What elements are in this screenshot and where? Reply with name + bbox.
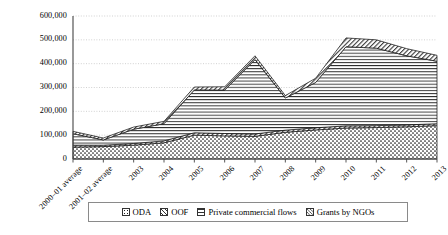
- legend-item[interactable]: OOF: [160, 207, 188, 217]
- y-axis-tick-label: 600,000: [0, 11, 67, 20]
- grants-by-ngos-swatch-icon: [306, 208, 314, 216]
- y-axis-tick-label: 500,000: [0, 34, 67, 43]
- private-commercial-flows-swatch-icon: [197, 208, 205, 216]
- area-series-group: [73, 38, 437, 159]
- y-axis-tick-label: 400,000: [0, 58, 67, 67]
- legend-label: OOF: [171, 207, 188, 217]
- legend-label: ODA: [133, 207, 152, 217]
- legend-item[interactable]: Private commercial flows: [197, 207, 296, 217]
- y-axis-tick-label: 100,000: [0, 130, 67, 139]
- chart-legend: ODAOOFPrivate commercial flowsGrants by …: [88, 202, 408, 222]
- legend-item[interactable]: Grants by NGOs: [306, 207, 375, 217]
- legend-label: Private commercial flows: [208, 207, 296, 217]
- y-axis-tick-label: 200,000: [0, 106, 67, 115]
- oda-swatch-icon: [122, 208, 130, 216]
- legend-item[interactable]: ODA: [122, 207, 152, 217]
- oof-swatch-icon: [160, 208, 168, 216]
- legend-label: Grants by NGOs: [317, 207, 375, 217]
- y-axis-tick-label: 300,000: [0, 82, 67, 91]
- y-axis-tick-label: 0: [0, 154, 67, 163]
